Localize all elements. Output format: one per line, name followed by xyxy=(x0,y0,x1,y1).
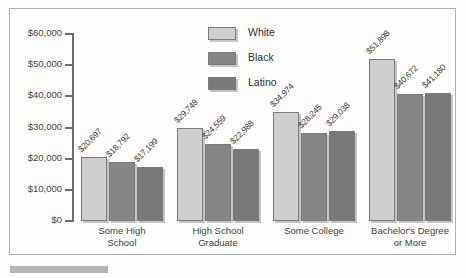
bar-item[interactable]: $41,180 xyxy=(425,34,451,221)
bar-value-label: $29,748 xyxy=(172,97,200,125)
bar-value-label: $41,180 xyxy=(420,62,448,90)
bar-item[interactable]: $20,697 xyxy=(81,34,107,221)
bar-value-label: $51,898 xyxy=(364,28,392,56)
caption-rule xyxy=(10,266,108,273)
bar-black[interactable] xyxy=(205,144,231,221)
bar-value-label: $24,559 xyxy=(200,114,228,142)
bar-item[interactable]: $24,559 xyxy=(205,34,231,221)
y-axis-tick-label: $20,000 xyxy=(10,152,62,163)
bar-value-label: $28,245 xyxy=(296,102,324,130)
y-axis-tick-label: $10,000 xyxy=(10,183,62,194)
bar-white[interactable] xyxy=(177,128,203,221)
bar-item[interactable]: $28,245 xyxy=(301,34,327,221)
y-axis-tick-label: $40,000 xyxy=(10,89,62,100)
bar-item[interactable]: $29,038 xyxy=(329,34,355,221)
x-axis-category-label: Bachelor's Degree or More xyxy=(349,225,466,248)
bar-item[interactable]: $22,988 xyxy=(233,34,259,221)
bar-latino[interactable] xyxy=(329,131,355,222)
bar-black[interactable] xyxy=(301,133,327,221)
bar-value-label: $17,199 xyxy=(132,137,160,165)
bar-value-label: $34,974 xyxy=(268,81,296,109)
chart-frame: $60,000$50,000$40,000$30,000$20,000$10,0… xyxy=(9,8,456,255)
bar-value-label: $22,988 xyxy=(228,119,256,147)
bar-value-label: $20,697 xyxy=(76,126,104,154)
bar-white[interactable] xyxy=(273,112,299,221)
bar-item[interactable]: $34,974 xyxy=(273,34,299,221)
bar-latino[interactable] xyxy=(233,149,259,221)
bar-group: $51,898$40,672$41,180 xyxy=(369,34,451,221)
bar-black[interactable] xyxy=(397,94,423,221)
bar-white[interactable] xyxy=(81,157,107,222)
y-axis-tick-label: $50,000 xyxy=(10,58,62,69)
bar-group: $34,974$28,245$29,038 xyxy=(273,34,355,221)
bar-item[interactable]: $40,672 xyxy=(397,34,423,221)
bar-value-label: $40,672 xyxy=(392,63,420,91)
y-axis-tick-label: $30,000 xyxy=(10,121,62,132)
bar-item[interactable]: $29,748 xyxy=(177,34,203,221)
bar-latino[interactable] xyxy=(137,167,163,221)
bar-value-label: $29,038 xyxy=(324,100,352,128)
bar-value-label: $18,792 xyxy=(104,132,132,160)
bar-group: $29,748$24,559$22,988 xyxy=(177,34,259,221)
bar-item[interactable]: $51,898 xyxy=(369,34,395,221)
y-axis-tick-label: $60,000 xyxy=(10,27,62,38)
bar-latino[interactable] xyxy=(425,93,451,221)
plot-area: $20,697$18,792$17,199$29,748$24,559$22,9… xyxy=(73,34,459,221)
bar-item[interactable]: $17,199 xyxy=(137,34,163,221)
bar-group: $20,697$18,792$17,199 xyxy=(81,34,163,221)
bar-black[interactable] xyxy=(109,162,135,221)
chart-figure: $60,000$50,000$40,000$30,000$20,000$10,0… xyxy=(0,0,466,278)
bar-item[interactable]: $18,792 xyxy=(109,34,135,221)
y-axis-tick-label: $0 xyxy=(10,214,62,225)
